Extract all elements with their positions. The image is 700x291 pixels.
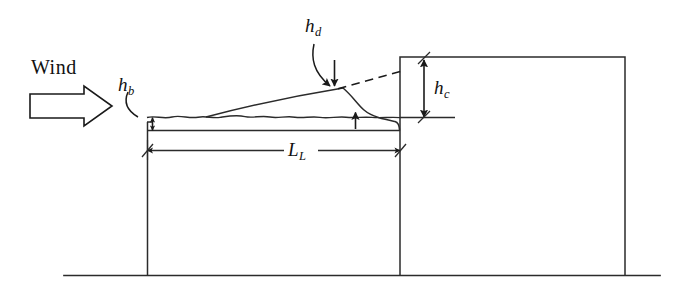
h-b-label: hb bbox=[118, 75, 134, 94]
h-b-subscript: b bbox=[128, 84, 134, 98]
balanced-snow-surface bbox=[147, 116, 400, 118]
l-l-label: LL bbox=[288, 140, 306, 159]
l-l-subscript: L bbox=[299, 149, 306, 163]
h-c-subscript: c bbox=[444, 87, 450, 101]
drift-profile-upper-slope bbox=[206, 88, 343, 117]
wind-arrow-icon bbox=[30, 86, 112, 126]
h-d-dimension bbox=[335, 60, 356, 129]
wind-label: Wind bbox=[31, 57, 77, 77]
l-l-dimension bbox=[142, 140, 406, 160]
drift-peak-dashed-line bbox=[338, 71, 404, 89]
h-c-base: h bbox=[434, 77, 444, 98]
h-d-base: h bbox=[305, 15, 315, 36]
snow-drift-diagram: Wind hb hd hc LL bbox=[0, 0, 700, 291]
h-d-subscript: d bbox=[315, 25, 321, 39]
diagram-canvas bbox=[0, 0, 700, 291]
drift-profile-lee-curve bbox=[343, 88, 400, 131]
l-l-base: L bbox=[288, 139, 299, 160]
h-d-leader-line bbox=[313, 44, 330, 86]
h-d-label: hd bbox=[305, 16, 321, 35]
lower-building-outline bbox=[147, 122, 400, 275]
h-c-label: hc bbox=[434, 78, 449, 97]
h-b-base: h bbox=[118, 74, 128, 95]
